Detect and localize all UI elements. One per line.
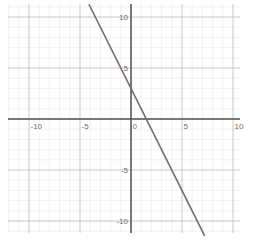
y-tick-label: 5 xyxy=(124,64,129,73)
x-tick-label: 10 xyxy=(235,122,244,131)
coordinate-graph-figure: -10-50510 105-5-10 xyxy=(0,0,254,242)
y-tick-label: 10 xyxy=(119,13,128,22)
x-tick-label: 5 xyxy=(184,122,189,131)
x-tick-label: 0 xyxy=(133,122,138,131)
y-tick-label: -5 xyxy=(121,166,129,175)
coordinate-graph-canvas: -10-50510 105-5-10 xyxy=(0,0,254,242)
y-tick-label: -10 xyxy=(116,217,128,226)
x-tick-label: -10 xyxy=(31,122,43,131)
plot-background xyxy=(0,0,254,242)
x-tick-label: -5 xyxy=(82,122,90,131)
